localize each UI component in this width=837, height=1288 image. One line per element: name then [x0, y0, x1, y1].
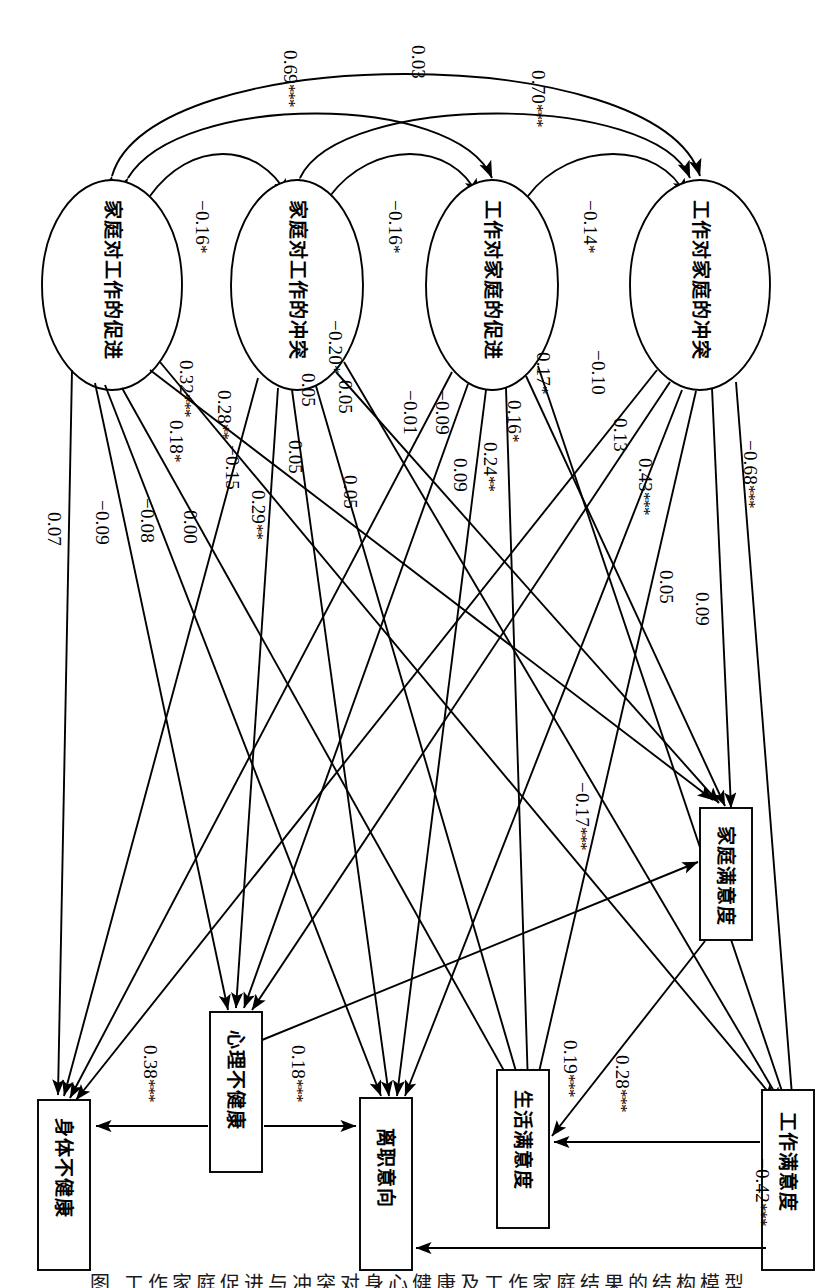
path-fwc-phys [64, 378, 258, 1096]
node-box-psych [210, 1012, 262, 1172]
path-fwc-famsat [336, 372, 719, 803]
corr-arc-fwf-fwc [150, 154, 288, 196]
node-box-jobsat [762, 1090, 814, 1270]
node-box-famsat [700, 808, 752, 940]
node-ellipse-fwf [42, 180, 182, 390]
path-wfc-lifesat [536, 391, 696, 1085]
path-fwf-jobsat [160, 362, 775, 1100]
node-box-phys [38, 1100, 90, 1270]
path-fwc-lifesat [316, 386, 520, 1085]
path-psych-famsat [262, 862, 698, 1040]
path-fwf-lifesat [122, 388, 512, 1085]
path-famsat-lifesat [552, 941, 705, 1136]
path-wff-turnover [397, 390, 486, 1096]
node-ellipse-wff [426, 180, 558, 390]
path-fwc-psych [236, 388, 278, 1008]
corr-arc-fwc-wff [330, 154, 478, 196]
node-ellipse-wfc [630, 180, 770, 390]
sem-diagram-svg [0, 0, 837, 1288]
path-fwf-phys [58, 370, 72, 1095]
path-wff-lifesat [506, 388, 528, 1085]
corr-arc-fwf-wfc [112, 74, 700, 176]
path-wff-psych [244, 384, 468, 1008]
node-box-lifesat [497, 1070, 549, 1228]
path-wfc-famsat [712, 388, 731, 808]
path-fwf-famsat [150, 370, 713, 800]
corr-arc-fwf-wff [128, 114, 492, 179]
path-wfc-jobsat [736, 382, 793, 1108]
path-wfc-phys [76, 370, 657, 1100]
path-wfc-psych [252, 382, 670, 1010]
figure-caption: 图 工作家庭促进与冲突对身心健康及工作家庭结果的结构模型 [90, 1268, 748, 1288]
path-fwf-psych [95, 383, 228, 1010]
figure-canvas: 家庭对工作的促进 家庭对工作的冲突 工作对家庭的促进 工作对家庭的冲突 身体不健… [0, 0, 837, 1288]
node-ellipse-fwc [231, 180, 363, 390]
node-box-turnover [360, 1098, 412, 1270]
corr-arc-wff-wfc [528, 154, 686, 196]
path-wff-phys [70, 372, 452, 1098]
path-wff-famsat [526, 376, 725, 806]
